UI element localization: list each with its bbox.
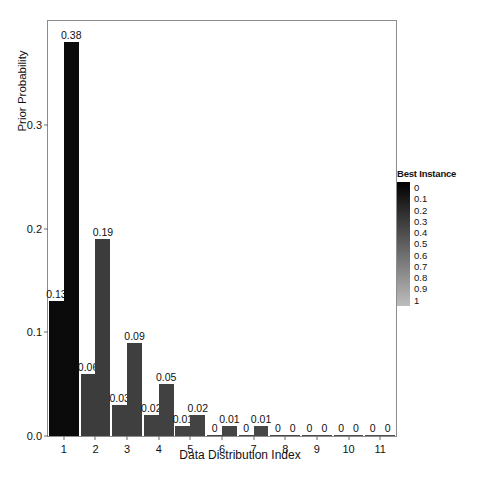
bar	[112, 405, 127, 436]
bar	[175, 426, 190, 436]
bar-value-label: 0	[385, 422, 391, 434]
bar-value-label: 0	[290, 422, 296, 434]
bar	[127, 343, 142, 436]
bar-value-label: 0.02	[188, 402, 208, 414]
legend-entry: 0	[414, 182, 480, 193]
bar-value-label: 0.38	[61, 29, 81, 41]
bar-value-label: 0	[338, 422, 344, 434]
x-axis-label: Data Distribution Index	[0, 448, 480, 462]
bar	[380, 435, 395, 436]
legend-entry: 0.8	[414, 272, 480, 283]
bar-value-label: 0	[353, 422, 359, 434]
bar	[317, 435, 332, 436]
x-tick-mark	[95, 436, 96, 440]
bar-value-label: 0.01	[251, 413, 271, 425]
bar	[81, 374, 96, 436]
x-tick-mark	[380, 436, 381, 440]
bar	[302, 435, 317, 436]
y-axis-label: Prior Probability	[16, 11, 28, 171]
bar	[95, 239, 110, 436]
bar-value-label: 0	[212, 422, 218, 434]
legend-entry: 0.7	[414, 261, 480, 272]
legend-entry: 1	[414, 295, 480, 306]
bar-value-label: 0.09	[124, 330, 144, 342]
legend-entry: 0.2	[414, 205, 480, 216]
x-tick-mark	[253, 436, 254, 440]
legend-entry: 0.1	[414, 193, 480, 204]
x-tick-mark	[127, 436, 128, 440]
bar	[349, 435, 364, 436]
bar	[159, 384, 174, 436]
bar-value-label: 0	[307, 422, 313, 434]
legend-colorbar	[397, 182, 410, 306]
legend-title: Best Instance	[397, 168, 480, 179]
legend: Best Instance 00.10.20.30.40.50.60.70.80…	[396, 168, 480, 306]
bar	[49, 301, 64, 436]
legend-entry: 0.6	[414, 250, 480, 261]
x-tick-mark	[348, 436, 349, 440]
x-tick-mark	[285, 436, 286, 440]
bar	[64, 42, 79, 436]
bar	[239, 435, 254, 436]
bar	[365, 435, 380, 436]
legend-body: 00.10.20.30.40.50.60.70.80.91	[396, 182, 480, 306]
bar	[334, 435, 349, 436]
bar	[222, 426, 237, 436]
legend-entry: 0.9	[414, 283, 480, 294]
bar	[254, 426, 269, 436]
x-tick-mark	[316, 436, 317, 440]
bar-value-label: 0	[243, 422, 249, 434]
x-tick-mark	[190, 436, 191, 440]
bar-value-label: 0	[275, 422, 281, 434]
bar-value-label: 0.05	[156, 371, 176, 383]
legend-entries: 00.10.20.30.40.50.60.70.80.91	[414, 182, 480, 306]
legend-entry: 0.4	[414, 227, 480, 238]
bar-group-container: 0.130.380.060.190.030.090.020.050.010.02…	[48, 21, 396, 436]
plot-area: Prior Probability 0.00.10.20.3 123456789…	[47, 20, 397, 437]
bar	[207, 435, 222, 436]
legend-entry: 0.3	[414, 216, 480, 227]
legend-entry: 0.5	[414, 238, 480, 249]
bar-value-label: 0.01	[219, 413, 239, 425]
chart-figure: Prior Probability 0.00.10.20.3 123456789…	[0, 0, 480, 488]
bar-value-label: 0	[370, 422, 376, 434]
bar	[144, 415, 159, 436]
bar-value-label: 0	[321, 422, 327, 434]
bar	[190, 415, 205, 436]
bar	[270, 435, 285, 436]
bar	[285, 435, 300, 436]
x-tick-mark	[158, 436, 159, 440]
x-tick-mark	[222, 436, 223, 440]
x-tick-mark	[63, 436, 64, 440]
bar-value-label: 0.19	[93, 226, 113, 238]
